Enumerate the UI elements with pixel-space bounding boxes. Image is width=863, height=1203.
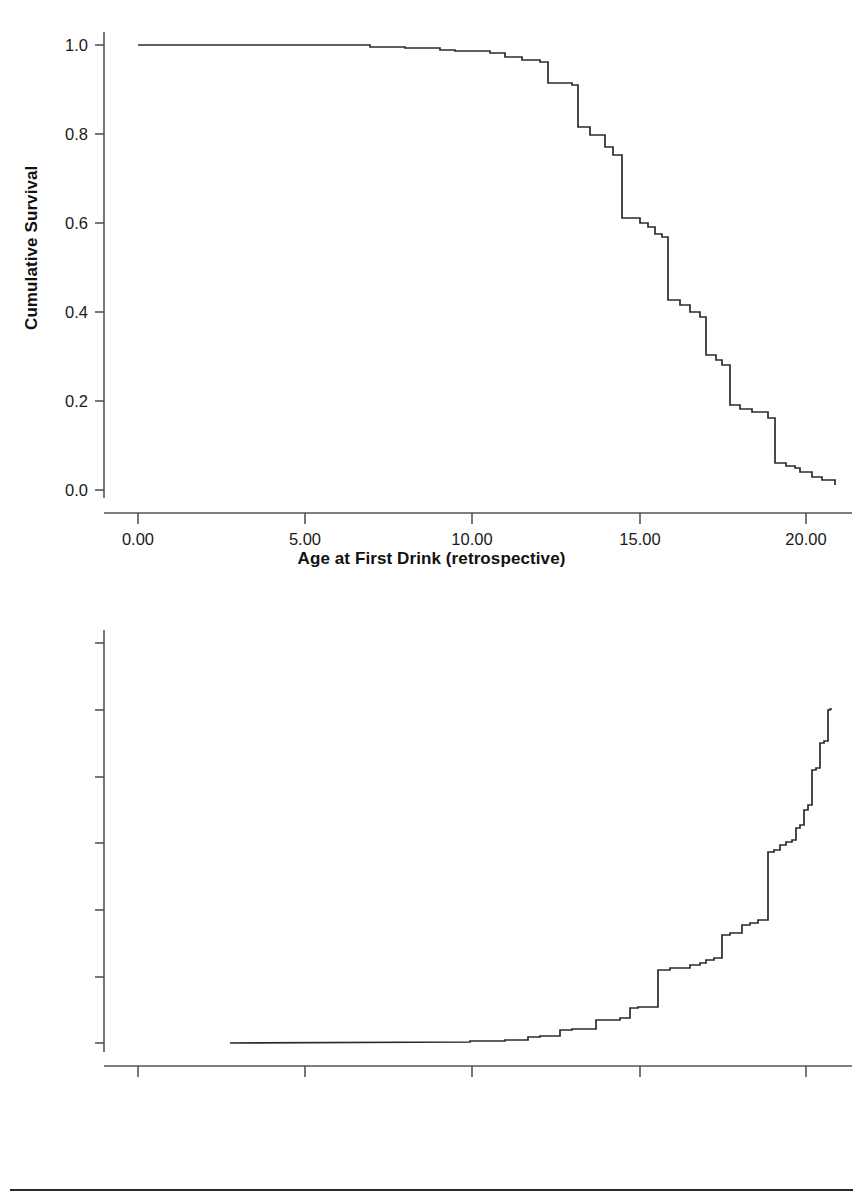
cumulative-hazard-panel: Cumulative Hazard 6 5 4 3 2 1 0 0.00 5.0… bbox=[0, 600, 863, 1203]
survival-y-axis-title: Cumulative Survival bbox=[22, 166, 42, 330]
survival-y-tick-0-4: 0.4 bbox=[40, 303, 88, 322]
survival-y-tick-0-2: 0.2 bbox=[40, 392, 88, 411]
survival-x-tick-0: 0.00 bbox=[122, 530, 154, 549]
survival-x-axis-title: Age at First Drink (retrospective) bbox=[0, 549, 863, 569]
survival-x-ticks bbox=[138, 513, 806, 524]
hazard-y-ticks bbox=[95, 643, 104, 1043]
hazard-x-ticks bbox=[138, 1066, 806, 1077]
hazard-step-curve bbox=[230, 709, 832, 1043]
survival-y-tick-0-8: 0.8 bbox=[40, 125, 88, 144]
figure-page: Cumulative Survival 1.0 0.8 0.6 0.4 0.2 … bbox=[0, 0, 863, 1203]
survival-x-tick-5: 5.00 bbox=[289, 530, 321, 549]
survival-y-tick-0-6: 0.6 bbox=[40, 214, 88, 233]
survival-x-tick-15: 15.00 bbox=[619, 530, 660, 549]
cumulative-survival-plot bbox=[0, 0, 863, 600]
survival-y-tick-1-0: 1.0 bbox=[40, 36, 88, 55]
cumulative-survival-panel: Cumulative Survival 1.0 0.8 0.6 0.4 0.2 … bbox=[0, 0, 863, 600]
survival-x-tick-20: 20.00 bbox=[785, 530, 826, 549]
cumulative-hazard-plot bbox=[0, 600, 863, 1203]
survival-y-tick-0-0: 0.0 bbox=[40, 481, 88, 500]
survival-x-tick-10: 10.00 bbox=[451, 530, 492, 549]
footer-horizontal-rule bbox=[10, 1189, 853, 1191]
survival-y-ticks bbox=[95, 45, 104, 490]
survival-step-curve bbox=[138, 45, 835, 485]
